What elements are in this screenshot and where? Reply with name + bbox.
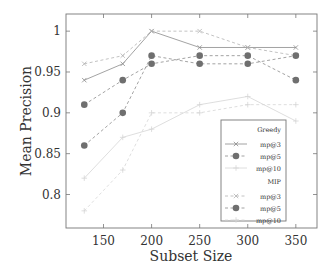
y-tick-label: 0.95 (34, 65, 61, 79)
circle-marker-icon (233, 205, 240, 212)
circle-marker-icon (119, 110, 126, 117)
plus-marker-icon (149, 110, 155, 116)
legend-entry-label: mp@10 (256, 165, 281, 173)
series-greedy-mp-at-3 (82, 29, 298, 82)
y-axis-label: Mean Precision (18, 66, 34, 176)
circle-marker-icon (244, 52, 251, 59)
line-chart: 150200250300350 0.80.850.90.951 Subset S… (0, 0, 333, 273)
circle-marker-icon (81, 142, 88, 149)
circle-marker-icon (148, 61, 155, 68)
legend-entry-label: mp@3 (260, 193, 281, 201)
legend-group-title: MIP (267, 178, 281, 186)
circle-marker-icon (196, 61, 203, 68)
plus-marker-icon (293, 102, 299, 108)
x-tick-label: 150 (92, 234, 115, 248)
plus-marker-icon (245, 94, 251, 100)
plus-marker-icon (245, 102, 251, 108)
plus-marker-icon (120, 167, 126, 173)
circle-marker-icon (293, 77, 300, 84)
circle-marker-icon (81, 101, 88, 108)
series-line (84, 31, 296, 80)
x-axis-label: Subset Size (150, 248, 233, 264)
circle-marker-icon (233, 153, 240, 160)
y-tick-label: 0.85 (34, 147, 61, 161)
plus-marker-icon (293, 118, 299, 124)
x-tick-label: 250 (188, 234, 211, 248)
y-tick-label: 0.8 (42, 188, 61, 202)
circle-marker-icon (293, 52, 300, 59)
legend-entry-label: mp@5 (260, 153, 281, 161)
x-tick-label: 300 (236, 234, 259, 248)
series-greedy-mp-at-5 (81, 52, 299, 108)
plus-marker-icon (197, 102, 203, 108)
y-tick-label: 0.9 (42, 106, 61, 120)
cross-marker-icon (121, 53, 125, 57)
legend-entry-label: mp@3 (260, 141, 281, 149)
y-tick-label: 1 (53, 24, 61, 38)
legend-entry-label: mp@10 (256, 217, 281, 225)
circle-marker-icon (196, 52, 203, 59)
legend: Greedymp@3mp@5mp@10MIPmp@3mp@5mp@10 (221, 120, 286, 225)
circle-marker-icon (119, 77, 126, 84)
legend-entry-label: mp@5 (260, 205, 281, 213)
circle-marker-icon (148, 52, 155, 59)
legend-group-title: Greedy (257, 126, 281, 134)
cross-marker-icon (82, 78, 86, 82)
plus-marker-icon (149, 126, 155, 132)
x-tick-label: 200 (140, 234, 163, 248)
series-line (84, 56, 296, 105)
plus-marker-icon (197, 110, 203, 116)
circle-marker-icon (244, 61, 251, 68)
cross-marker-icon (121, 62, 125, 66)
x-tick-label: 350 (284, 234, 307, 248)
